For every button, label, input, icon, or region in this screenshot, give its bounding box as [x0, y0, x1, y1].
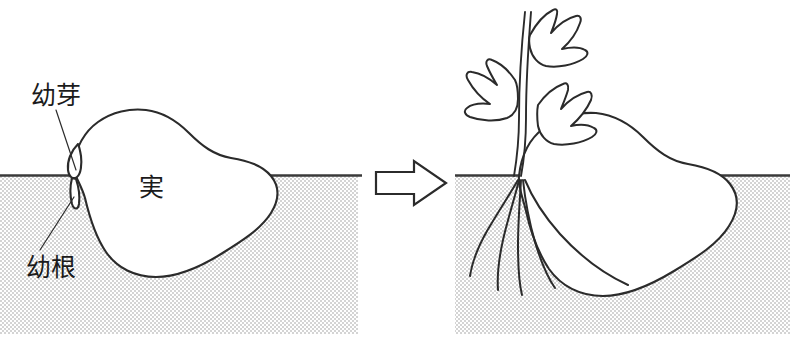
- plumule-label: 幼芽: [31, 81, 81, 110]
- plumule-leader-line: [56, 110, 76, 170]
- transformation-arrow: [376, 161, 446, 205]
- left-panel: 幼芽 幼根 実: [0, 81, 362, 334]
- right-panel: [455, 9, 790, 334]
- leaf-top: [529, 9, 587, 66]
- plumule-sprout: [68, 144, 82, 178]
- radicle-root: [71, 178, 80, 209]
- seed-label: 実: [139, 173, 164, 202]
- leaf-left: [465, 59, 518, 120]
- germination-figure: 幼芽 幼根 実: [0, 0, 797, 355]
- figure-canvas: 幼芽 幼根 実: [0, 0, 797, 355]
- arrow-right-icon: [376, 161, 446, 205]
- radicle-label: 幼根: [26, 253, 76, 282]
